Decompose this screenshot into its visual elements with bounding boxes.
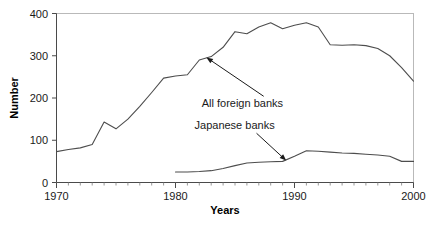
annotation-leader-line <box>257 133 283 157</box>
annotation-all-foreign-banks: All foreign banks <box>202 57 284 109</box>
x-tick-label-1980: 1980 <box>163 190 187 202</box>
series-line-japanese-banks <box>176 151 414 172</box>
y-tick-label-400: 400 <box>30 8 48 20</box>
y-axis: 400 300 200 100 0 Number <box>8 8 57 189</box>
annotation-label-all-foreign-banks: All foreign banks <box>202 97 284 109</box>
y-tick-label-0: 0 <box>42 177 48 189</box>
annotation-label-japanese-banks: Japanese banks <box>195 119 276 131</box>
x-tick-label-2000: 2000 <box>401 190 425 202</box>
y-tick-label-200: 200 <box>30 92 48 104</box>
x-axis-title: Years <box>210 204 239 216</box>
x-tick-label-1990: 1990 <box>282 190 306 202</box>
annotation-japanese-banks: Japanese banks <box>195 119 287 160</box>
annotation-leader-line <box>210 60 264 96</box>
line-chart-canvas: 400 300 200 100 0 Number 1970 1980 1990 … <box>0 0 432 228</box>
y-tick-label-300: 300 <box>30 50 48 62</box>
y-tick-label-100: 100 <box>30 134 48 146</box>
annotation-arrow-head-icon <box>206 57 213 63</box>
chart-figure: 400 300 200 100 0 Number 1970 1980 1990 … <box>0 0 432 228</box>
x-tick-label-1970: 1970 <box>44 190 68 202</box>
series-line-all-foreign-banks <box>57 23 414 152</box>
y-axis-ticks <box>52 14 57 183</box>
x-axis: 1970 1980 1990 2000 Years <box>44 183 425 217</box>
y-axis-title: Number <box>8 77 20 119</box>
